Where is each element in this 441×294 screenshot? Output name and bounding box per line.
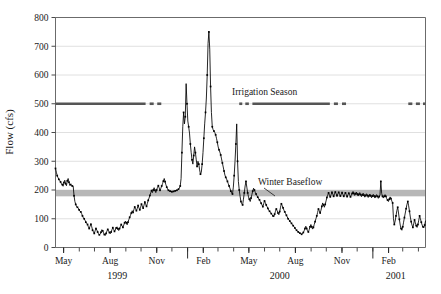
x-tick-label: Feb <box>381 256 396 266</box>
x-tick-label: Feb <box>196 256 211 266</box>
x-axis-year-label: 2000 <box>270 270 290 281</box>
irrigation-season-label: Irrigation Season <box>232 87 297 97</box>
y-tick-label: 200 <box>34 185 49 195</box>
winter-baseflow-label: Winter Baseflow <box>258 177 322 187</box>
y-tick-label: 600 <box>34 70 49 80</box>
y-axis-title: Flow (cfs) <box>3 109 16 155</box>
x-tick-label: Nov <box>334 256 351 266</box>
x-tick-label: Aug <box>102 256 119 266</box>
x-axis-year-label: 1999 <box>107 270 127 281</box>
y-tick-label: 800 <box>34 13 49 23</box>
y-tick-label: 300 <box>34 157 49 167</box>
x-tick-label: Aug <box>287 256 304 266</box>
flow-hydrograph-chart: 0100200300400500600700800 MayAugNovFebMa… <box>0 0 441 294</box>
chart-background <box>0 0 441 294</box>
y-tick-label: 100 <box>34 214 49 224</box>
y-tick-label: 700 <box>34 42 49 52</box>
x-tick-label: May <box>240 256 258 266</box>
y-tick-label: 500 <box>34 99 49 109</box>
y-tick-label: 0 <box>44 243 49 253</box>
x-axis-year-label: 2001 <box>386 270 406 281</box>
x-tick-label: May <box>55 256 73 266</box>
y-tick-label: 400 <box>34 128 49 138</box>
chart-root: 0100200300400500600700800 MayAugNovFebMa… <box>0 0 441 294</box>
x-tick-label: Nov <box>149 256 166 266</box>
